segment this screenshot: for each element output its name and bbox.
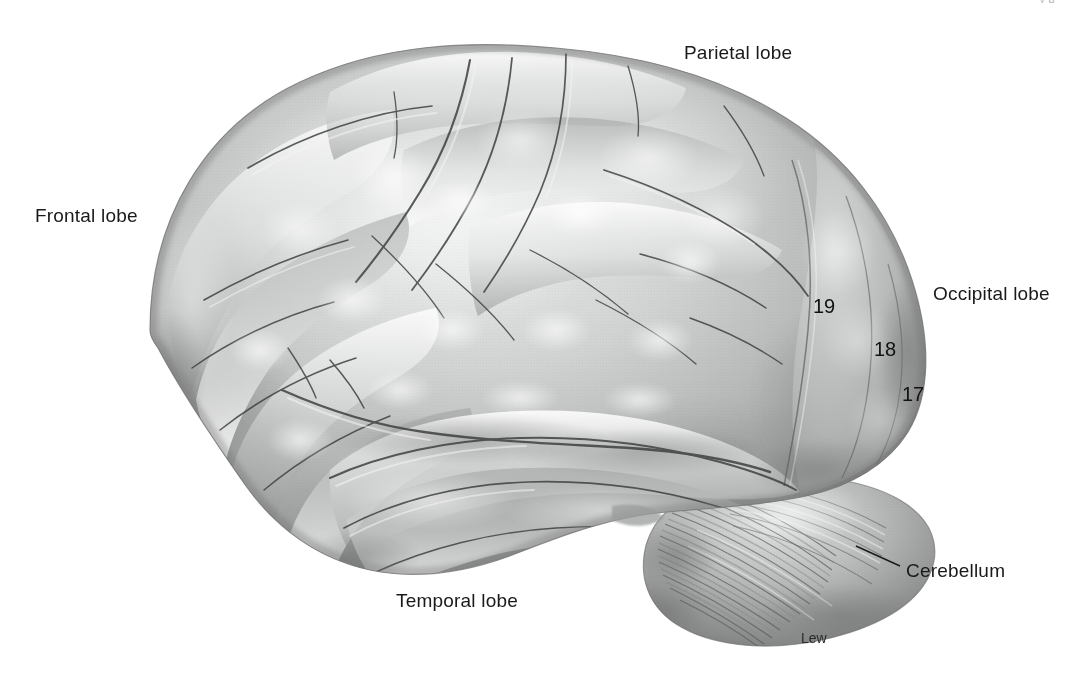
label-frontal-lobe: Frontal lobe (35, 206, 138, 225)
brodmann-area-17: 17 (902, 384, 924, 404)
brodmann-area-18: 18 (874, 339, 896, 359)
brodmann-area-19: 19 (813, 296, 835, 316)
artist-signature: Lew (801, 631, 827, 645)
brain-anatomy-figure: y g (0, 0, 1083, 676)
label-occipital-lobe: Occipital lobe (933, 284, 1050, 303)
label-temporal-lobe: Temporal lobe (396, 591, 518, 610)
label-cerebellum: Cerebellum (906, 561, 1005, 580)
label-parietal-lobe: Parietal lobe (684, 43, 792, 62)
